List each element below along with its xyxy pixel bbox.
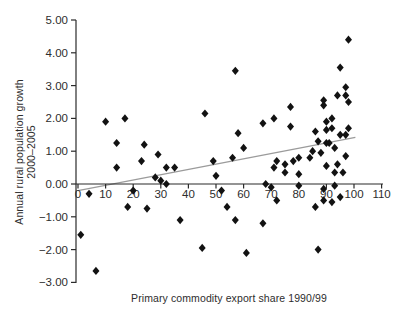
data-point	[144, 205, 151, 213]
data-point	[102, 118, 109, 126]
data-point	[295, 170, 302, 178]
data-point	[270, 114, 277, 122]
data-point	[141, 141, 148, 149]
data-point	[287, 123, 294, 131]
data-point	[337, 193, 344, 201]
data-point	[342, 152, 349, 160]
data-point	[334, 91, 341, 99]
data-point	[86, 190, 93, 198]
data-point	[243, 249, 250, 257]
x-tick-label: 40	[182, 188, 195, 200]
y-tick-label: 0.00	[46, 178, 68, 190]
data-point	[77, 231, 84, 239]
scatter-canvas: −3.00−2.00−1.000.001.002.003.004.005.000…	[0, 0, 405, 311]
y-tick-label: 2.00	[46, 112, 68, 124]
data-point	[199, 244, 206, 252]
y-tick-label: 3.00	[46, 80, 68, 92]
data-point	[345, 36, 352, 44]
y-tick-label: −2.00	[39, 244, 68, 256]
y-axis-title: Annual rural population growth 2000–2005	[13, 52, 39, 252]
x-tick-label: 30	[154, 188, 167, 200]
data-point	[138, 157, 145, 165]
y-tick-label: −3.00	[39, 276, 68, 288]
data-point	[213, 172, 220, 180]
data-point	[163, 164, 170, 172]
data-point	[315, 246, 322, 254]
x-tick-label: 100	[344, 188, 363, 200]
data-point	[339, 168, 346, 176]
x-tick-label: 110	[372, 188, 390, 200]
data-point	[124, 203, 131, 211]
data-point	[282, 160, 289, 168]
data-point	[235, 129, 242, 137]
data-point	[328, 124, 335, 132]
data-point	[331, 144, 338, 152]
data-point	[121, 114, 128, 122]
data-point	[224, 203, 231, 211]
data-point	[312, 203, 319, 211]
y-tick-label: 5.00	[46, 14, 68, 26]
x-axis-title: Primary commodity export share 1990/99	[76, 292, 382, 304]
data-point	[240, 144, 247, 152]
data-point	[337, 63, 344, 71]
data-point	[287, 103, 294, 111]
data-point	[320, 101, 327, 109]
data-point	[317, 149, 324, 157]
data-point	[334, 160, 341, 168]
data-point	[323, 162, 330, 170]
data-point	[232, 216, 239, 224]
data-point	[155, 150, 162, 158]
y-tick-label: −1.00	[39, 211, 68, 223]
data-point	[312, 127, 319, 135]
y-axis-title-line2: 2000–2005	[25, 52, 37, 252]
data-point	[323, 126, 330, 134]
data-point	[259, 219, 266, 227]
x-tick-label: 60	[237, 188, 250, 200]
data-point	[331, 168, 338, 176]
data-point	[171, 164, 178, 172]
x-tick-label: 10	[99, 188, 112, 200]
y-tick-label: 1.00	[46, 145, 68, 157]
data-point	[342, 83, 349, 91]
data-point	[113, 164, 120, 172]
x-tick-label: 0	[75, 188, 81, 200]
data-point	[259, 119, 266, 127]
data-point	[232, 67, 239, 75]
data-point	[113, 139, 120, 147]
data-point	[177, 216, 184, 224]
data-point	[282, 168, 289, 176]
y-tick-label: 4.00	[46, 47, 68, 59]
data-point	[92, 267, 99, 275]
scatter-plot-figure: −3.00−2.00−1.000.001.002.003.004.005.000…	[0, 0, 405, 311]
y-axis-title-line1: Annual rural population growth	[13, 52, 25, 252]
trend-line	[78, 137, 355, 190]
data-point	[201, 109, 208, 117]
